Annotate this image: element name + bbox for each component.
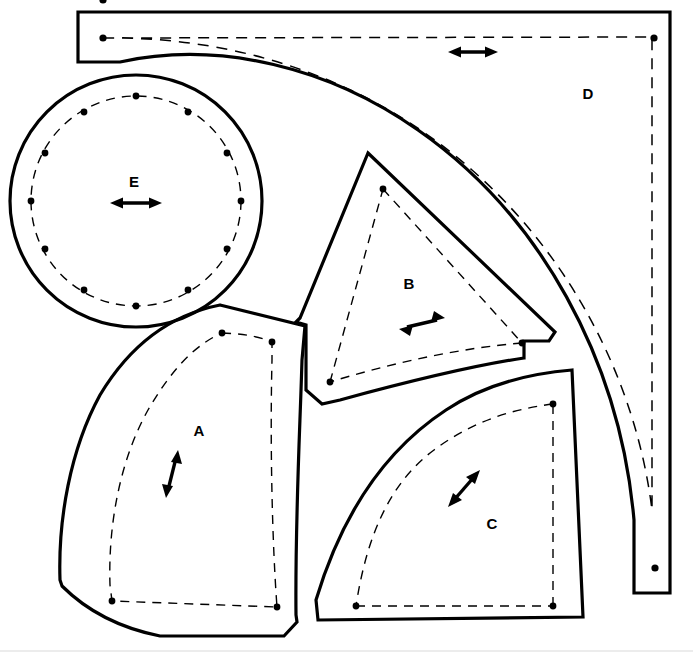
grainline-arrow-A [162,450,182,498]
marker-dot [185,109,192,116]
marker-dot-ring-E [28,93,245,310]
pattern-piece-A[interactable]: A [60,305,305,636]
marker-dot [651,564,658,571]
marker-dot [550,603,557,610]
stitching-line-A [110,333,277,607]
marker-dot [133,93,140,100]
pattern-piece-C[interactable]: C [316,370,583,620]
grainline-arrow-B [399,311,445,336]
pattern-piece-E[interactable]: E [10,75,262,327]
pattern-sheet: d1 D [0,0,693,658]
piece-label-E: E [129,173,139,190]
marker-dot [327,379,334,386]
marker-dot [109,598,116,605]
marker-dot [353,603,360,610]
marker-dot [224,150,231,157]
marker-dot [380,186,387,193]
marker-dot [519,340,526,347]
pattern-piece-B[interactable]: B [296,153,555,404]
piece-label-B: B [404,275,415,292]
marker-dot [274,604,281,611]
marker-dot [550,401,557,408]
marker-dot [185,287,192,294]
piece-label-D: D [583,85,594,102]
cutting-line-C [316,370,583,620]
piece-label-C: C [487,515,498,532]
grainline-arrow-C [448,470,480,507]
marker-dot [28,198,35,205]
marker-dot [81,109,88,116]
cutting-line-E [10,75,262,327]
marker-dot [42,150,49,157]
stitching-line-B [330,189,522,382]
piece-label-A: A [194,422,205,439]
marker-dot [219,330,226,337]
marker-dot: d1 [99,0,106,4]
marker-dot [133,303,140,310]
marker-dot [81,287,88,294]
pattern-canvas: d1 D [0,0,693,658]
pattern-piece-D[interactable]: d1 D [78,0,670,593]
marker-dot [238,198,245,205]
marker-dot [42,246,49,253]
marker-dot [269,339,276,346]
grainline-arrow-D [448,47,498,58]
marker-dot [650,34,657,41]
marker-dot [99,34,106,41]
cutting-line-A [60,305,305,636]
stitching-line-C [356,404,553,606]
stitching-line-E [31,96,241,306]
grainline-arrow-E [110,198,162,209]
marker-dot [224,246,231,253]
